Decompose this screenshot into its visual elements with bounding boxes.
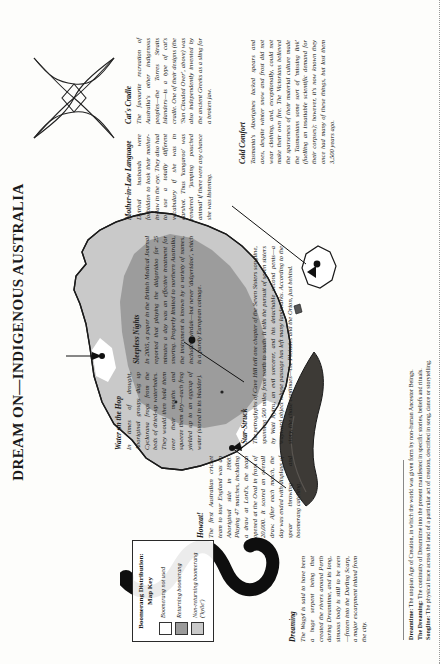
map-marker-tasmania [314,261,321,268]
article-body: Tasmania's Aborigines lacked spears and … [249,40,336,164]
glossary-term: Dreamtime: [408,609,414,640]
glossary-term: The Dreaming: [417,600,423,640]
page-title-sub: Indigenous Australia [10,183,26,379]
page-title: Dream On—Indigenous Australia [10,0,27,664]
article-heading: Mother-in-Law Language [124,134,134,220]
legend-label-returning: Returning boomerang [175,564,182,618]
legend-title-line1: Boomerang Distribution: [137,553,145,628]
article-sleepless-nights: Sleepless Nights In 2005, a paper in the… [132,236,204,364]
article-dreaming: Dreaming The Wagyl is said to have been … [288,556,369,642]
article-body: The Wagyl is said to have been a huge se… [299,556,369,642]
legend-title: Boomerang Distribution: Map Key [137,547,155,635]
article-heading: Cat's Cradle [124,38,134,124]
legend-swatch-not-used [159,622,172,635]
legend-title-line2: Map Key [146,577,154,605]
article-heading: Dreaming [288,556,298,642]
legend-label-non-returning: Non-returning boomerang ('kylie') [191,547,206,618]
glossary-term: Songline: [425,616,431,640]
article-body: The petroglyphs of Cave Hill tell one ch… [251,246,295,444]
legend-item-returning: Returning boomerang [175,547,188,635]
article-cats-cradle: Cat's Cradle The favourite recreation of… [124,38,214,124]
glossary: Dreamtime: The utopian Age of Creation, … [403,24,432,640]
glossary-definition: The continuity of Dreamtime into the pre… [417,368,423,599]
article-body: The favourite recreation of Australia's … [135,38,213,124]
map-marker-interior [220,390,223,393]
article-heading: Water on the Hop [114,372,124,450]
glossary-rule [403,460,404,640]
legend-label-not-used: Boomerang not used [159,567,166,618]
article-heading: Cold Comfort [238,40,248,164]
page-title-dash: — [10,379,26,394]
article-cold-comfort: Cold Comfort Tasmania's Aborigines lacke… [238,40,336,164]
legend-item-non-returning: Non-returning boomerang ('kylie') [191,547,206,635]
article-heading: Star-Struck [240,246,250,444]
article-heading: Sleepless Nights [132,236,142,364]
string-figure-cats-cradle [28,52,124,144]
article-body: In 2005, a paper in the British Medical … [143,236,204,364]
glossary-entry-songline: Songline: The physical trace across the … [424,24,432,640]
magazine-spread: Dream On—Indigenous Australia [0,0,440,664]
article-water-on-the-hop: Water on the Hop In times of drought, Ab… [114,372,204,450]
article-howzat: Howzat! The first Australian cricket tea… [196,456,303,538]
article-body: Dyirbal husbands were forbidden to look … [135,134,213,220]
legend-item-not-used: Boomerang not used [159,547,172,635]
map-tasmania [302,246,336,288]
map-island-small [294,304,302,314]
article-star-struck: Star-Struck The petroglyphs of Cave Hill… [240,246,295,444]
article-heading: Howzat! [196,456,206,538]
glossary-definition: The utopian Age of Creation, in which th… [408,369,414,607]
legend-swatch-returning [175,622,188,635]
glossary-definition: The physical trace across the land of a … [425,359,431,614]
article-body: The first Australian cricket team to tou… [207,456,303,538]
page-title-main: Dream On [10,395,26,481]
article-body: In times of drought, Aboriginal groups d… [125,372,203,450]
boomerang-distribution-legend: Boomerang Distribution: Map Key Boomeran… [132,540,214,642]
glossary-entry-the-dreaming: The Dreaming: The continuity of Dreamtim… [416,24,424,640]
article-mother-in-law: Mother-in-Law Language Dyirbal husbands … [124,134,214,220]
glossary-entry-dreamtime: Dreamtime: The utopian Age of Creation, … [407,24,415,640]
legend-swatch-non-returning [191,622,204,635]
